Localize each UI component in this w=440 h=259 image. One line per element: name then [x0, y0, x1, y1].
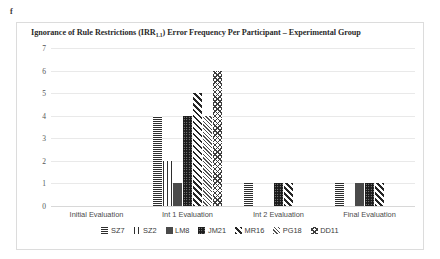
y-axis-tick-label: 1 [42, 179, 46, 188]
plot-area: 76543210 [51, 48, 415, 206]
bar-lm8[interactable] [173, 183, 182, 206]
legend-item-pg18[interactable]: PG18 [273, 226, 301, 235]
bar-group [324, 48, 415, 206]
y-axis-tick-label: 3 [42, 134, 46, 143]
figure-label: f [10, 7, 13, 16]
bar-sz7[interactable] [335, 183, 344, 206]
legend-swatch-icon [134, 227, 141, 234]
chart-title: Ignorance of Rule Restrictions (IRR1.1) … [31, 28, 417, 37]
y-axis-tick-label: 6 [42, 66, 46, 75]
chart-title-text-after: ) Error Frequency Per Participant – Expe… [163, 28, 361, 37]
chart-title-subscript: 1.1 [156, 32, 163, 38]
x-axis-labels: Initial EvaluationInt 1 EvaluationInt 2 … [51, 210, 415, 219]
bar-mr16[interactable] [375, 183, 384, 206]
bar-pg18[interactable] [203, 116, 212, 206]
bar-jm21[interactable] [183, 116, 192, 206]
bar-mr16[interactable] [193, 93, 202, 206]
y-axis-tick-label: 4 [42, 111, 46, 120]
legend-swatch-icon [166, 227, 173, 234]
chart-legend: SZ7SZ2LM8JM21MR16PG18DD11 [17, 226, 423, 235]
legend-swatch-icon [311, 227, 318, 234]
legend-item-mr16[interactable]: MR16 [235, 226, 264, 235]
y-axis-tick-label: 0 [42, 202, 46, 211]
bar-sz2[interactable] [163, 161, 172, 206]
y-axis-tick-label: 2 [42, 156, 46, 165]
bar-jm21[interactable] [365, 183, 374, 206]
bar-jm21[interactable] [274, 183, 283, 206]
legend-label: SZ2 [143, 226, 157, 235]
bar-dd11[interactable] [213, 71, 222, 206]
bar-sz7[interactable] [153, 116, 162, 206]
gridline: 0 [51, 206, 415, 207]
legend-item-jm21[interactable]: JM21 [198, 226, 226, 235]
bar-sz7[interactable] [244, 183, 253, 206]
bar-mr16[interactable] [284, 183, 293, 206]
bar-group [142, 48, 233, 206]
legend-swatch-icon [101, 227, 108, 234]
legend-swatch-icon [273, 227, 280, 234]
bar-lm8[interactable] [355, 183, 364, 206]
legend-label: LM8 [175, 226, 189, 235]
legend-label: MR16 [245, 226, 265, 235]
bar-group [51, 48, 142, 206]
legend-label: DD11 [320, 226, 338, 235]
y-axis-tick-label: 7 [42, 44, 46, 53]
legend-item-lm8[interactable]: LM8 [166, 226, 190, 235]
x-axis-label: Int 1 Evaluation [142, 210, 233, 219]
legend-swatch-icon [235, 227, 242, 234]
legend-label: JM21 [208, 226, 226, 235]
legend-item-dd11[interactable]: DD11 [311, 226, 339, 235]
legend-item-sz7[interactable]: SZ7 [101, 226, 124, 235]
legend-swatch-icon [198, 227, 205, 234]
x-axis-label: Int 2 Evaluation [233, 210, 324, 219]
legend-label: PG18 [283, 226, 302, 235]
bar-groups [51, 48, 415, 206]
legend-label: SZ7 [111, 226, 125, 235]
bar-group [233, 48, 324, 206]
x-axis-label: Initial Evaluation [51, 210, 142, 219]
legend-item-sz2[interactable]: SZ2 [134, 226, 157, 235]
x-axis-label: Final Evaluation [324, 210, 415, 219]
chart-container: Ignorance of Rule Restrictions (IRR1.1) … [16, 22, 424, 250]
y-axis-tick-label: 5 [42, 89, 46, 98]
chart-title-text-before: Ignorance of Rule Restrictions (IRR [31, 28, 156, 37]
